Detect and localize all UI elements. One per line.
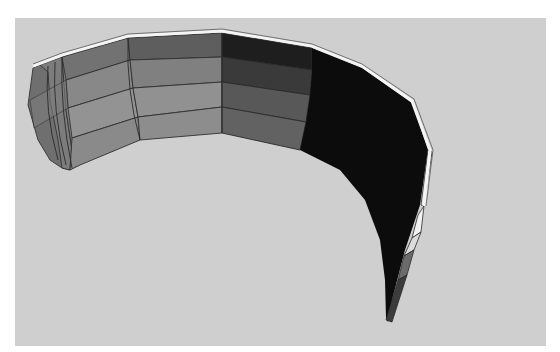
curved-band-mesh xyxy=(0,0,560,352)
dark-interior xyxy=(300,48,428,322)
middle-right-section xyxy=(222,33,312,150)
middle-left-section xyxy=(128,33,222,140)
